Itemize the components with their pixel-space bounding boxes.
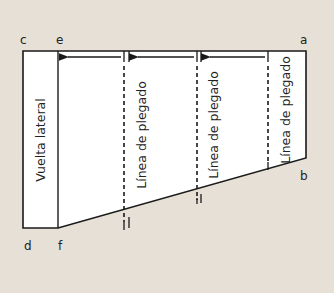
corner-label-a: a [300, 33, 307, 47]
folding-pattern-diagram: Vuelta lateral Línea de plegado Línea de… [0, 0, 334, 293]
corner-label-f: f [58, 239, 63, 253]
fold-line-3-label: Línea de plegado [278, 56, 293, 164]
corner-label-b: b [300, 169, 308, 183]
pattern-outline [23, 51, 306, 228]
fold-line-2-label: Línea de plegado [206, 71, 221, 179]
side-panel-label: Vuelta lateral [33, 98, 48, 181]
corner-label-d: d [24, 239, 32, 253]
corner-label-e: e [56, 33, 63, 47]
corner-label-c: c [20, 33, 27, 47]
fold-line-1-label: Línea de plegado [134, 81, 149, 189]
